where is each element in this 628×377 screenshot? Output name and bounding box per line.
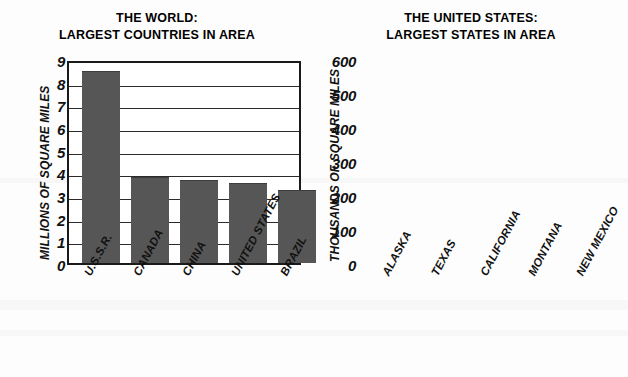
y-tick-states-400: 400 <box>322 121 356 138</box>
x-label-states-california: CALIFORNIA <box>478 208 522 277</box>
y-tick-states-600: 600 <box>322 53 356 70</box>
y-tick-world-6: 6 <box>41 121 65 138</box>
chart-panel-states: THE UNITED STATES: LARGEST STATES IN ARE… <box>314 0 628 377</box>
y-tick-world-1: 1 <box>41 234 65 251</box>
chart-title-states: THE UNITED STATES: LARGEST STATES IN ARE… <box>314 10 628 43</box>
x-label-states-texas: TEXAS <box>429 238 458 278</box>
x-label-states-new-mexico: NEW MEXICO <box>574 205 620 278</box>
chart-panel-world: THE WORLD: LARGEST COUNTRIES IN AREA MIL… <box>0 0 314 377</box>
y-tick-states-200: 200 <box>322 189 356 206</box>
chart-title-states-line2: LARGEST STATES IN AREA <box>314 27 628 44</box>
y-tick-world-8: 8 <box>41 75 65 92</box>
chart-title-world-line2: LARGEST COUNTRIES IN AREA <box>0 27 314 44</box>
y-tick-world-0: 0 <box>41 257 65 274</box>
y-tick-world-4: 4 <box>41 166 65 183</box>
y-tick-world-2: 2 <box>41 211 65 228</box>
x-label-states-montana: MONTANA <box>526 220 564 277</box>
chart-page: THE WORLD: LARGEST COUNTRIES IN AREA MIL… <box>0 0 628 377</box>
y-tick-states-0: 0 <box>322 257 356 274</box>
y-tick-world-7: 7 <box>41 98 65 115</box>
chart-title-world-line1: THE WORLD: <box>116 11 198 25</box>
x-label-states-alaska: ALASKA <box>380 229 413 277</box>
y-tick-world-5: 5 <box>41 143 65 160</box>
y-tick-states-500: 500 <box>322 87 356 104</box>
y-tick-states-100: 100 <box>322 223 356 240</box>
chart-title-states-line1: THE UNITED STATES: <box>404 11 538 25</box>
y-tick-world-9: 9 <box>41 53 65 70</box>
y-tick-world-3: 3 <box>41 189 65 206</box>
chart-title-world: THE WORLD: LARGEST COUNTRIES IN AREA <box>0 10 314 43</box>
y-tick-states-300: 300 <box>322 155 356 172</box>
